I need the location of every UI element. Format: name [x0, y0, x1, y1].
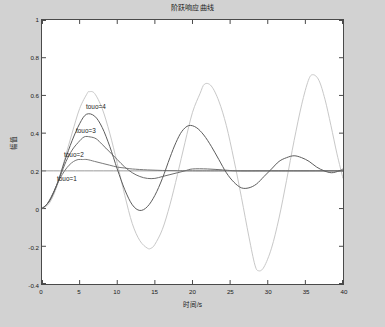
y-tick-label: 0.8	[30, 54, 39, 61]
y-tick-label: -0.4	[28, 282, 39, 289]
plot-svg	[42, 20, 343, 284]
curve-label-tou3: touo=3	[76, 127, 96, 134]
plot-area	[41, 19, 344, 285]
y-tick-label: 0.2	[30, 168, 39, 175]
curve-touo-1	[42, 159, 343, 208]
x-tick-label: 15	[151, 288, 158, 295]
x-tick-label: 20	[189, 288, 196, 295]
curve-label-tou1: touo=1	[57, 175, 77, 182]
x-tick-label: 25	[227, 288, 234, 295]
chart-title: 阶跃响应曲线	[0, 3, 385, 13]
y-axis-tick-labels: 10.80.60.40.20-0.2-0.4	[8, 19, 39, 285]
curve-label-tou2: touo=2	[64, 151, 84, 158]
figure-canvas: 阶跃响应曲线 10.80.60.40.20-0.2-0.4 0510152025…	[0, 0, 385, 327]
y-axis-label: 幅值	[8, 136, 18, 150]
y-tick-label: 0	[36, 206, 39, 213]
x-tick-label: 10	[113, 288, 120, 295]
x-tick-label: 40	[341, 288, 348, 295]
y-tick-label: 1	[36, 16, 39, 23]
y-tick-label: 0.6	[30, 92, 39, 99]
x-tick-label: 30	[265, 288, 272, 295]
x-tick-label: 0	[39, 288, 42, 295]
curve-touo-2	[42, 136, 343, 208]
x-axis-label: 时间/s	[41, 299, 344, 309]
x-axis-tick-labels: 0510152025303540	[41, 288, 344, 298]
x-tick-label: 35	[303, 288, 310, 295]
curve-label-tou4: touo=4	[86, 103, 106, 110]
y-tick-label: 0.4	[30, 130, 39, 137]
y-tick-label: -0.2	[28, 244, 39, 251]
x-tick-label: 5	[77, 288, 80, 295]
